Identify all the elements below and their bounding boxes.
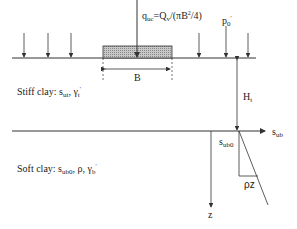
strength-profile-line — [239, 131, 268, 205]
soft-clay-label: Soft clay: sub0, ρ, γb' — [17, 163, 97, 176]
surcharge-label: p0' — [222, 15, 232, 28]
width-label: B — [134, 73, 141, 83]
x-axis-label: sub — [272, 127, 283, 139]
stiff-clay-label: Stiff clay: sut, γt' — [17, 86, 81, 99]
load-label: quc=Qv/(πB2/4) — [142, 10, 202, 23]
thickness-label: Ht — [243, 92, 252, 104]
intercept-label: sub0 — [219, 137, 233, 149]
diagram-canvas — [0, 0, 297, 229]
z-axis-label: z — [208, 210, 212, 220]
gradient-label: ρz — [244, 180, 255, 190]
